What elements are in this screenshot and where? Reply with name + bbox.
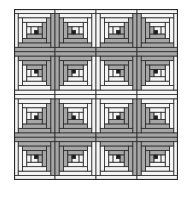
quilt-block-r1-c3 bbox=[137, 52, 178, 95]
quilt-block-r2-c1 bbox=[55, 95, 96, 138]
quilt-block-r3-c0 bbox=[14, 137, 55, 180]
quilt-svg bbox=[14, 9, 178, 180]
quilt-block-r2-c3 bbox=[137, 95, 178, 138]
quilt-block-r1-c2 bbox=[96, 52, 137, 95]
quilt-block-r2-c0 bbox=[14, 95, 55, 138]
quilt-block-r1-c1 bbox=[55, 52, 96, 95]
quilt-block-r3-c1 bbox=[55, 137, 96, 180]
log-cabin-quilt bbox=[14, 9, 178, 180]
quilt-block-r3-c3 bbox=[137, 137, 178, 180]
quilt-block-r0-c0 bbox=[14, 9, 55, 52]
quilt-block-r2-c2 bbox=[96, 95, 137, 138]
quilt-block-r0-c1 bbox=[55, 9, 96, 52]
quilt-block-r0-c2 bbox=[96, 9, 137, 52]
quilt-block-r0-c3 bbox=[137, 9, 178, 52]
quilt-block-r3-c2 bbox=[96, 137, 137, 180]
quilt-block-r1-c0 bbox=[14, 52, 55, 95]
